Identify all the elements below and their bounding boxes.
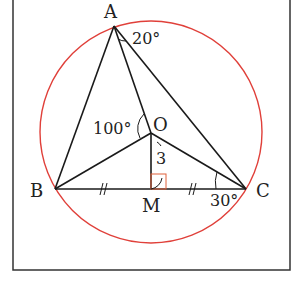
label-O: O xyxy=(153,114,168,135)
geometry-diagram: A B C O M 20° 100° 30° 3 xyxy=(0,0,292,294)
length-arc-OM xyxy=(157,142,161,146)
angle-label-O: 100° xyxy=(93,119,132,138)
label-B: B xyxy=(30,180,43,201)
right-angle-mark xyxy=(151,174,166,189)
segment-AB xyxy=(55,26,114,189)
angle-arc-O xyxy=(138,114,144,138)
angle-arc-C xyxy=(215,172,217,189)
angle-arc-M xyxy=(151,178,162,189)
angle-label-C: 30° xyxy=(210,191,238,210)
label-M: M xyxy=(142,195,160,216)
segments xyxy=(55,26,246,189)
label-A: A xyxy=(103,1,118,22)
angle-label-A: 20° xyxy=(132,29,160,48)
length-label-OM: 3 xyxy=(156,149,166,168)
segment-BO xyxy=(55,133,151,189)
label-C: C xyxy=(256,180,270,201)
